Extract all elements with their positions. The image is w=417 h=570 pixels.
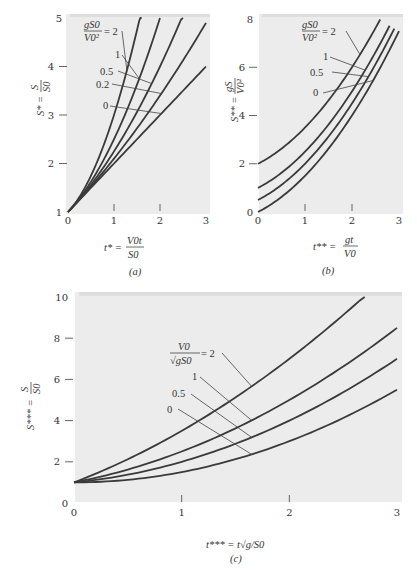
c-ytick-label-4: 4 [54, 415, 60, 426]
c-legend-eq: = 2 [201, 348, 215, 359]
c-ytick-label-0: 0 [62, 498, 68, 509]
c-ytick-label-2: 2 [54, 456, 60, 467]
a-ytick-label-5: 5 [56, 13, 62, 24]
a-caption: (a) [129, 266, 142, 278]
panel-c: 01230246810 V0 √gS0 = 2 1 0.5 0 S*** = S… [19, 292, 402, 566]
c-xtick-label-1: 1 [178, 507, 184, 518]
a-legend-eq: = 2 [104, 26, 118, 37]
c-label-1: 1 [192, 371, 197, 382]
a-ylabel-num: S [29, 84, 40, 90]
c-xlabel-lhs: t*** = [206, 539, 234, 550]
b-xlabel-den: V0 [344, 248, 356, 259]
b-label-0.5: 0.5 [310, 67, 323, 78]
a-xlabel-den: S0 [128, 249, 139, 260]
a-ytick-label-2: 2 [48, 158, 54, 169]
a-xtick-label-0: 0 [65, 215, 71, 226]
c-ylabel: S*** = S S0 [19, 382, 42, 430]
plot-top-band-a [70, 14, 210, 17]
c-ylabel-num: S [19, 386, 30, 392]
b-ylabel-lhs: S** = [229, 97, 240, 122]
figure: 012312345 gS0 V0² = 2 1 0.5 0.2 0 S* = S… [0, 0, 417, 570]
a-xlabel-lhs: t* = [104, 242, 122, 253]
c-caption: (c) [230, 553, 242, 565]
b-ylabel-den: V0² [235, 78, 246, 94]
a-xtick-label-2: 2 [157, 215, 163, 226]
c-legend-num: V0 [178, 341, 190, 352]
a-label-1: 1 [115, 49, 120, 60]
c-xlabel-rhs: t√g/S0 [237, 539, 265, 550]
a-label-0.5: 0.5 [100, 66, 113, 77]
b-ytick-label-0: 0 [247, 207, 253, 218]
a-ylabel-lhs: S* = [35, 96, 46, 116]
b-xtick-label-1: 1 [302, 215, 308, 226]
plot-area-b [259, 14, 403, 214]
b-xtick-label-0: 0 [255, 215, 261, 226]
c-ylabel-lhs: S*** = [25, 399, 36, 430]
b-caption: (b) [322, 265, 335, 277]
c-label-0: 0 [167, 404, 172, 415]
c-ytick-label-6: 6 [54, 374, 60, 385]
plot-top-band-c [79, 292, 402, 296]
b-legend-num: gS0 [302, 19, 319, 30]
b-ylabel-num: gS [223, 81, 234, 92]
c-legend-den: √gS0 [170, 355, 192, 366]
b-ytick-label-6: 6 [239, 62, 245, 73]
a-legend-num: gS0 [84, 19, 101, 30]
panel-a: 012312345 gS0 V0² = 2 1 0.5 0.2 0 S* = S… [29, 13, 210, 279]
b-ytick-label-2: 2 [239, 158, 245, 169]
a-label-0.2: 0.2 [96, 79, 109, 90]
a-xlabel-num: V0t [127, 235, 143, 246]
a-ytick-label-1: 1 [56, 207, 62, 218]
panel-b: 012302468 gS0 V0² = 2 1 0.5 0 S** = gS V… [223, 14, 403, 278]
b-legend-den: V0² [302, 32, 318, 43]
a-label-0: 0 [103, 100, 108, 111]
a-xtick-label-3: 3 [203, 215, 209, 226]
c-ylabel-den: S0 [31, 383, 42, 394]
b-ytick-label-8: 8 [247, 14, 253, 25]
c-label-0.5: 0.5 [172, 388, 185, 399]
c-xtick-label-3: 3 [394, 507, 400, 518]
a-legend-den: V0² [84, 32, 100, 43]
b-xtick-label-3: 3 [396, 215, 402, 226]
b-label-1: 1 [323, 51, 328, 62]
b-xlabel-lhs: t** = [313, 241, 336, 252]
a-ylabel-den: S0 [41, 81, 52, 92]
plot-top-band-b [262, 14, 403, 17]
b-xlabel-num: gt [345, 234, 354, 245]
c-ytick-label-8: 8 [54, 333, 60, 344]
b-xtick-label-2: 2 [349, 215, 355, 226]
a-xtick-label-1: 1 [111, 215, 117, 226]
c-ytick-label-10: 10 [55, 292, 68, 303]
c-xtick-label-0: 0 [71, 507, 77, 518]
a-ytick-label-4: 4 [48, 61, 54, 72]
a-ytick-label-3: 3 [48, 110, 54, 121]
b-label-0: 0 [313, 87, 318, 98]
b-legend-eq: = 2 [322, 26, 336, 37]
c-xtick-label-2: 2 [286, 507, 292, 518]
